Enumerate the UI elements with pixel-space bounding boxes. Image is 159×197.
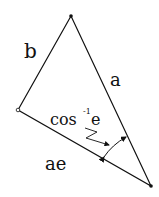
pointer-squiggle: [85, 128, 109, 145]
label-angle-sup: -1: [83, 107, 91, 116]
vertex-right: [149, 184, 153, 188]
label-side-b: b: [24, 39, 37, 63]
label-angle-cos: cos: [50, 110, 77, 129]
label-side-a: a: [110, 69, 121, 90]
vertex-top: [69, 14, 73, 18]
label-side-ae: ae: [45, 153, 66, 174]
triangle: [18, 16, 151, 186]
label-angle-e: e: [91, 110, 100, 129]
triangle-diagram: b a ae cos -1 e: [0, 0, 159, 197]
angle-arc: [104, 137, 126, 157]
vertex-left: [16, 108, 20, 112]
